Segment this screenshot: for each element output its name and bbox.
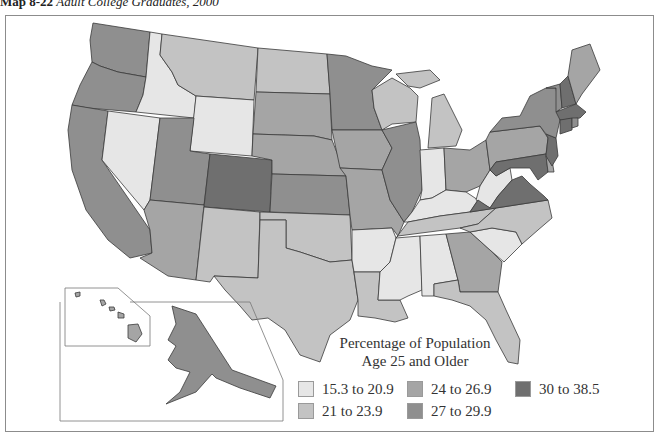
state-AK[interactable] [166, 306, 276, 404]
state-SD[interactable] [253, 92, 332, 140]
legend-label-c4: 27 to 29.9 [431, 403, 491, 420]
legend-swatch-c4 [407, 403, 423, 419]
legend-item-c5: 30 to 38.5 [515, 380, 599, 398]
state-CO[interactable] [204, 154, 272, 212]
state-ND[interactable] [256, 48, 330, 94]
legend-title-line2: Age 25 and Older [330, 352, 500, 370]
state-NM[interactable] [196, 207, 260, 282]
legend-label-c5: 30 to 38.5 [539, 381, 599, 398]
state-KS[interactable] [270, 174, 350, 215]
legend-item-c4: 27 to 29.9 [407, 402, 491, 420]
legend-swatch-c3 [407, 381, 423, 397]
state-CT[interactable] [560, 118, 572, 134]
legend-swatch-c1 [298, 381, 314, 397]
legend-label-c3: 24 to 26.9 [431, 381, 491, 398]
state-WY[interactable] [190, 96, 254, 156]
legend-label-c1: 15.3 to 20.9 [322, 381, 394, 398]
legend-item-c2: 21 to 23.9 [298, 402, 382, 420]
legend-title: Percentage of Population Age 25 and Olde… [330, 334, 500, 370]
legend-label-c2: 21 to 23.9 [322, 403, 382, 420]
legend-item-c3: 24 to 26.9 [407, 380, 491, 398]
state-IA[interactable] [332, 130, 392, 170]
state-HI[interactable] [75, 292, 142, 342]
us-choropleth-map [0, 0, 659, 437]
legend-item-c1: 15.3 to 20.9 [298, 380, 394, 398]
state-RI[interactable] [572, 118, 578, 128]
legend-title-line1: Percentage of Population [330, 334, 500, 352]
legend-swatch-c5 [515, 381, 531, 397]
legend-swatch-c2 [298, 403, 314, 419]
